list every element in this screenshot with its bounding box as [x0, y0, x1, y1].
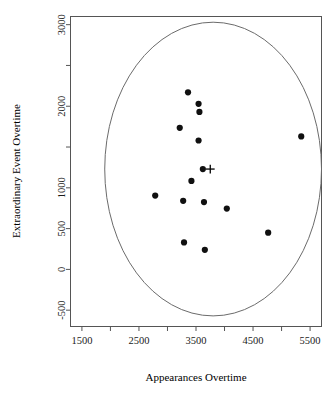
y-axis-title: Extraordinary Event Overtime — [10, 104, 22, 238]
data-point — [180, 198, 186, 204]
data-point — [195, 101, 201, 107]
y-tick-label: 500 — [56, 221, 67, 237]
data-point — [181, 239, 187, 245]
data-point — [185, 89, 191, 95]
data-point — [188, 178, 194, 184]
data-point — [200, 166, 206, 172]
x-tick-label: 2500 — [128, 335, 149, 346]
data-point — [177, 125, 183, 131]
y-tick-label: 3000 — [56, 14, 67, 35]
x-axis-title: Appearances Overtime — [145, 371, 246, 383]
y-tick-label: -500 — [56, 301, 67, 320]
y-tick-label: 0 — [56, 267, 67, 272]
centroid-marker — [206, 165, 215, 174]
data-point — [196, 109, 202, 115]
data-point — [224, 206, 230, 212]
data-point — [201, 199, 207, 205]
x-tick-label: 3500 — [186, 335, 207, 346]
x-axis-ticks — [82, 327, 310, 332]
scatter-plot-figure: 15002500350045005500 -500050010002000300… — [0, 0, 332, 397]
x-tick-label: 5500 — [300, 335, 321, 346]
x-tick-label: 1500 — [71, 335, 92, 346]
y-axis-tick-labels: -5000500100020003000 — [56, 14, 67, 320]
data-point — [298, 133, 304, 139]
y-tick-label: 1000 — [56, 177, 67, 198]
x-axis-tick-labels: 15002500350045005500 — [71, 335, 320, 346]
data-point — [152, 192, 158, 198]
data-point — [195, 137, 201, 143]
x-tick-label: 4500 — [243, 335, 264, 346]
y-tick-label: 2000 — [56, 96, 67, 117]
plot-canvas: 15002500350045005500 -500050010002000300… — [0, 0, 332, 397]
data-point — [265, 230, 271, 236]
data-points — [152, 89, 304, 253]
data-point — [202, 247, 208, 253]
